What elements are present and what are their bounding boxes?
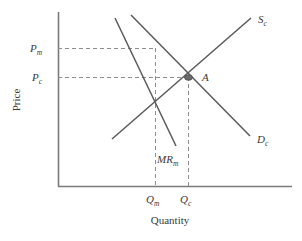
marginal-revenue-curve-label: MRm xyxy=(156,153,179,168)
supply-curve-line xyxy=(112,18,251,139)
point-a-label: A xyxy=(201,71,209,83)
quantity-tick-label-qm: Qm xyxy=(146,193,160,208)
curves-group xyxy=(112,15,251,146)
price-tick-label-pm: Pm xyxy=(29,42,43,57)
economics-supply-demand-diagram: Sc Dc MRm A Pm Pc Qm Qc Price Quantity xyxy=(0,0,302,241)
quantity-tick-label-qc: Qc xyxy=(180,193,192,208)
demand-curve-label: Dc xyxy=(256,133,269,148)
x-axis-title: Quantity xyxy=(151,214,190,226)
guide-lines-group xyxy=(58,48,189,186)
equilibrium-point-marker xyxy=(185,75,193,81)
supply-curve-label: Sc xyxy=(258,13,268,28)
price-tick-label-pc: Pc xyxy=(31,71,43,86)
y-axis-title: Price xyxy=(10,89,22,112)
marginal-revenue-curve-line xyxy=(115,18,176,146)
